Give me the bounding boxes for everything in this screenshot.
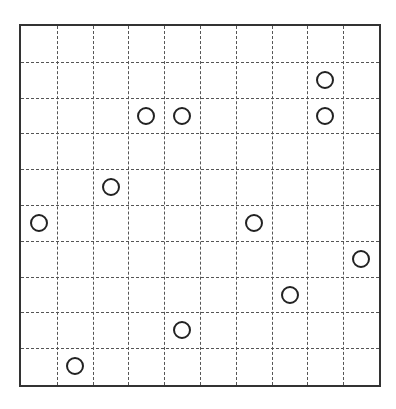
circle-marker[interactable] (352, 250, 370, 268)
grid-line-horizontal (21, 348, 379, 349)
grid-line-horizontal (21, 169, 379, 170)
circle-marker[interactable] (30, 214, 48, 232)
grid-line-horizontal (21, 241, 379, 242)
circle-marker[interactable] (66, 357, 84, 375)
circle-marker[interactable] (316, 107, 334, 125)
grid-line-horizontal (21, 133, 379, 134)
grid-line-horizontal (21, 98, 379, 99)
puzzle-grid[interactable] (19, 24, 381, 387)
grid-line-horizontal (21, 277, 379, 278)
circle-marker[interactable] (316, 71, 334, 89)
grid-line-horizontal (21, 62, 379, 63)
grid-line-horizontal (21, 205, 379, 206)
circle-marker[interactable] (173, 107, 191, 125)
circle-marker[interactable] (173, 321, 191, 339)
circle-marker[interactable] (102, 178, 120, 196)
grid-line-horizontal (21, 312, 379, 313)
circle-marker[interactable] (245, 214, 263, 232)
circle-marker[interactable] (137, 107, 155, 125)
circle-marker[interactable] (281, 286, 299, 304)
